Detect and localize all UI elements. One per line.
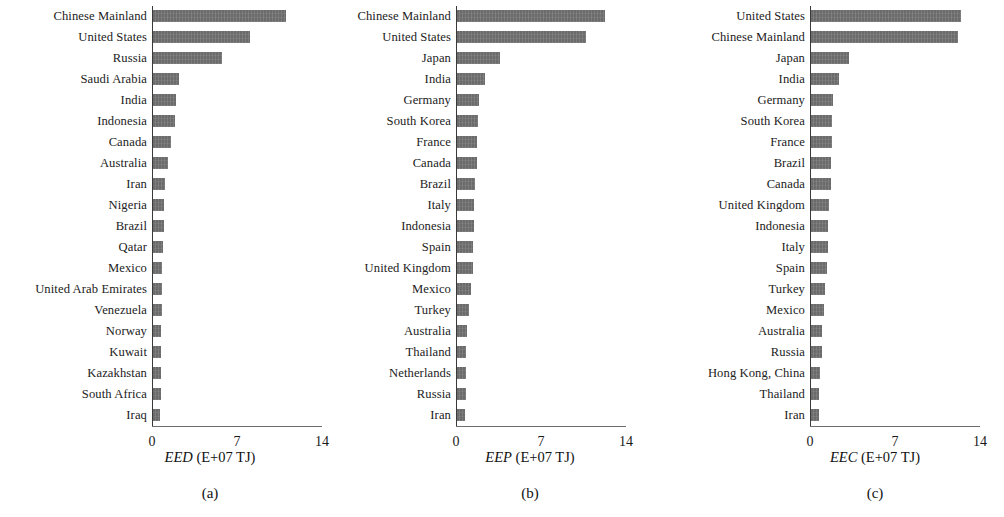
category-label: Iran xyxy=(334,409,456,422)
bar xyxy=(456,346,466,358)
bar xyxy=(152,241,163,253)
category-label: Italy xyxy=(668,241,810,254)
bar-row: France xyxy=(668,132,1004,153)
category-label: South Korea xyxy=(668,115,810,128)
x-tick-label: 14 xyxy=(619,434,633,450)
category-label: Canada xyxy=(668,178,810,191)
bar-row: Chinese Mainland xyxy=(0,6,334,27)
bar-track xyxy=(456,237,668,258)
category-label: United Arab Emirates xyxy=(0,283,152,296)
bar-row: Germany xyxy=(668,90,1004,111)
bar xyxy=(810,367,820,379)
bar-track xyxy=(810,321,1004,342)
bar xyxy=(810,10,961,22)
bar-row: Indonesia xyxy=(334,216,668,237)
bar-row: Saudi Arabia xyxy=(0,69,334,90)
bar-row: India xyxy=(0,90,334,111)
bar-row: Russia xyxy=(668,342,1004,363)
x-tick-label: 14 xyxy=(973,434,987,450)
bar-row: Japan xyxy=(334,48,668,69)
bar-track xyxy=(810,69,1004,90)
category-label: Iran xyxy=(0,178,152,191)
bar-track xyxy=(152,258,334,279)
panel-b-y-axis xyxy=(456,6,457,426)
bar-row: Thailand xyxy=(334,342,668,363)
panel-c-axis-title: EEC (E+07 TJ) xyxy=(668,449,1004,466)
bar-track xyxy=(810,216,1004,237)
category-label: Mexico xyxy=(334,283,456,296)
x-tick-label: 7 xyxy=(234,434,241,450)
bar xyxy=(456,220,474,232)
bar xyxy=(810,136,832,148)
category-label: Iran xyxy=(668,409,810,422)
category-label: Turkey xyxy=(668,283,810,296)
bar-track xyxy=(810,384,1004,405)
panel-b-x-axis xyxy=(456,426,626,427)
bar-row: Iran xyxy=(668,405,1004,426)
category-label: South Korea xyxy=(334,115,456,128)
bar-row: Brazil xyxy=(0,216,334,237)
bar-track xyxy=(456,363,668,384)
category-label: Saudi Arabia xyxy=(0,73,152,86)
bar xyxy=(152,283,162,295)
category-label: Thailand xyxy=(334,346,456,359)
bar-row: Mexico xyxy=(334,279,668,300)
bar xyxy=(152,52,222,64)
bar-row: Kazakhstan xyxy=(0,363,334,384)
bar-row: Nigeria xyxy=(0,195,334,216)
bar-track xyxy=(810,342,1004,363)
category-label: Qatar xyxy=(0,241,152,254)
category-label: Hong Kong, China xyxy=(668,367,810,380)
panel-b-axis-symbol: EEP xyxy=(485,449,512,465)
bar-row: Iraq xyxy=(0,405,334,426)
category-label: India xyxy=(0,94,152,107)
panel-a-axis-unit: (E+07 TJ) xyxy=(196,449,255,465)
category-label: Italy xyxy=(334,199,456,212)
bar xyxy=(456,262,473,274)
panel-b: Chinese MainlandUnited StatesJapanIndiaG… xyxy=(334,0,668,517)
bar-row: Indonesia xyxy=(668,216,1004,237)
panel-c-x-axis xyxy=(810,426,980,427)
category-label: France xyxy=(334,136,456,149)
bar xyxy=(456,283,471,295)
category-label: India xyxy=(334,73,456,86)
panel-c: United StatesChinese MainlandJapanIndiaG… xyxy=(668,0,1004,517)
bar-row: South Korea xyxy=(334,111,668,132)
bar xyxy=(810,52,849,64)
bar-track xyxy=(152,300,334,321)
category-label: South Africa xyxy=(0,388,152,401)
bar xyxy=(810,94,833,106)
bar-row: India xyxy=(668,69,1004,90)
bar-row: Germany xyxy=(334,90,668,111)
bar-row: United Kingdom xyxy=(334,258,668,279)
bar-row: Canada xyxy=(334,153,668,174)
bar-row: Mexico xyxy=(668,300,1004,321)
x-tick-label: 7 xyxy=(538,434,545,450)
bar xyxy=(152,94,176,106)
panel-a-axis-symbol: EED xyxy=(165,449,193,465)
panel-a-y-axis xyxy=(152,6,153,426)
bar-row: Australia xyxy=(334,321,668,342)
category-label: Russia xyxy=(334,388,456,401)
category-label: Kuwait xyxy=(0,346,152,359)
x-tick-label: 14 xyxy=(315,434,329,450)
bar xyxy=(810,31,958,43)
category-label: Russia xyxy=(668,346,810,359)
category-label: United States xyxy=(668,10,810,23)
bar-track xyxy=(456,153,668,174)
bar-row: Russia xyxy=(334,384,668,405)
bar-track xyxy=(810,279,1004,300)
bar xyxy=(810,262,827,274)
bar-track xyxy=(456,321,668,342)
bar-row: Canada xyxy=(668,174,1004,195)
bar-track xyxy=(456,69,668,90)
bar xyxy=(810,241,828,253)
bar-track xyxy=(810,132,1004,153)
bar-row: United States xyxy=(0,27,334,48)
bar xyxy=(152,220,164,232)
bar-track xyxy=(152,216,334,237)
bar-row: Qatar xyxy=(0,237,334,258)
bar xyxy=(152,262,162,274)
category-label: Brazil xyxy=(668,157,810,170)
bar-row: Australia xyxy=(0,153,334,174)
